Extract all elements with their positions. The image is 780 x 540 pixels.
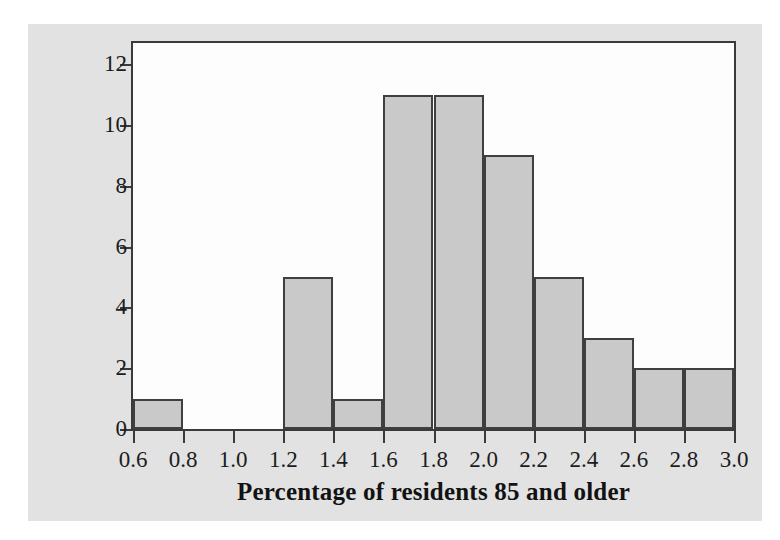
plot-area: 024681012 0.60.81.01.21.41.61.82.02.22.4… bbox=[131, 41, 736, 431]
x-axis-tick-label: 1.0 bbox=[219, 447, 248, 473]
x-axis-tick-label: 1.8 bbox=[419, 447, 448, 473]
y-axis-tick-label: 6 bbox=[116, 234, 128, 260]
x-axis-tick-label: 3.0 bbox=[720, 447, 749, 473]
x-axis-tick-label: 2.6 bbox=[619, 447, 648, 473]
y-axis: 024681012 bbox=[133, 43, 734, 429]
x-axis-tick bbox=[584, 429, 586, 443]
x-axis-tick bbox=[734, 429, 736, 443]
y-axis-tick-label: 0 bbox=[116, 416, 128, 442]
x-axis-tick bbox=[233, 429, 235, 443]
x-axis-tick-label: 2.4 bbox=[569, 447, 598, 473]
x-axis-tick bbox=[434, 429, 436, 443]
x-axis-tick-label: 0.6 bbox=[119, 447, 148, 473]
x-axis-tick-label: 0.8 bbox=[169, 447, 198, 473]
x-axis-tick bbox=[484, 429, 486, 443]
x-axis-tick bbox=[534, 429, 536, 443]
x-axis-tick-label: 2.8 bbox=[670, 447, 699, 473]
x-axis-tick-label: 2.2 bbox=[519, 447, 548, 473]
y-axis-tick-label: 12 bbox=[104, 51, 127, 77]
y-axis-tick-label: 2 bbox=[116, 355, 128, 381]
x-axis-tick bbox=[283, 429, 285, 443]
x-axis-tick-label: 1.2 bbox=[269, 447, 298, 473]
x-axis-tick bbox=[684, 429, 686, 443]
x-axis-title: Percentage of residents 85 and older bbox=[131, 478, 736, 506]
x-axis-tick-label: 2.0 bbox=[469, 447, 498, 473]
x-axis-tick bbox=[133, 429, 135, 443]
x-axis-tick bbox=[333, 429, 335, 443]
y-axis-tick-label: 10 bbox=[104, 112, 127, 138]
x-axis-tick-label: 1.4 bbox=[319, 447, 348, 473]
y-axis-tick-label: 8 bbox=[116, 173, 128, 199]
x-axis-tick-label: 1.6 bbox=[369, 447, 398, 473]
x-axis-tick bbox=[634, 429, 636, 443]
y-axis-tick-label: 4 bbox=[116, 294, 128, 320]
x-axis-tick bbox=[383, 429, 385, 443]
x-axis-tick bbox=[183, 429, 185, 443]
figure-root: 024681012 0.60.81.01.21.41.61.82.02.22.4… bbox=[0, 0, 780, 540]
